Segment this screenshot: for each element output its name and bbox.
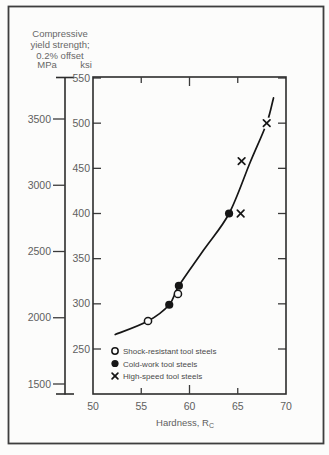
chart-svg: Compressive yield strength; 0.2% offset … [0, 0, 329, 455]
data-point-open-circle-marker [174, 290, 181, 297]
title-line-2: yield strength; [30, 39, 89, 50]
legend-item-label: Shock-resistant tool steels [123, 347, 216, 356]
data-points [144, 117, 272, 324]
legend-item-label: Cold-work tool steels [123, 360, 197, 369]
ksi-tick-label-400: 400 [72, 207, 90, 219]
ksi-axis-ticks: 550500450400350300250 [72, 72, 286, 355]
ksi-tick-label-500: 500 [72, 117, 90, 129]
mpa-tick-label-3000: 3000 [28, 179, 52, 191]
trend-curve-path [115, 98, 273, 335]
ksi-tick-label-250: 250 [72, 343, 90, 355]
data-point-filled-circle-marker [225, 209, 233, 217]
ksi-tick-label-550: 550 [72, 72, 90, 84]
mpa-tick-label-2500: 2500 [28, 245, 52, 257]
legend-item-open-circle: Shock-resistant tool steels [112, 347, 217, 356]
ksi-unit-label: ksi [80, 59, 92, 70]
legend: Shock-resistant tool steelsCold-work too… [111, 347, 216, 381]
mpa-unit-label: MPa [37, 59, 57, 70]
data-point-filled-circle-marker [165, 301, 173, 309]
chart-title: Compressive yield strength; 0.2% offset [30, 28, 89, 61]
data-point-filled-circle-marker [175, 282, 183, 290]
x-tick-label-60: 60 [184, 400, 196, 412]
data-point-open-circle-marker [144, 317, 151, 324]
trend-curve [115, 98, 273, 335]
x-tick-label-70: 70 [280, 400, 292, 412]
legend-item-x: High-speed tool steels [112, 372, 202, 381]
x-tick-label-50: 50 [87, 400, 99, 412]
legend-filled-circle-marker [111, 360, 118, 367]
x-tick-label-55: 55 [135, 400, 147, 412]
legend-item-filled-circle: Cold-work tool steels [111, 360, 197, 369]
legend-open-circle-marker [112, 348, 118, 354]
title-line-1: Compressive [32, 28, 87, 39]
legend-item-label: High-speed tool steels [123, 372, 202, 381]
tool-steel-strength-figure: Compressive yield strength; 0.2% offset … [0, 0, 329, 455]
ksi-tick-label-450: 450 [72, 162, 90, 174]
mpa-tick-label-1500: 1500 [28, 378, 52, 390]
ksi-tick-label-300: 300 [72, 297, 90, 309]
x-axis-label: Hardness, RC [156, 417, 214, 429]
mpa-tick-label-3500: 3500 [28, 113, 52, 125]
x-tick-label-65: 65 [232, 400, 244, 412]
ksi-tick-label-350: 350 [72, 252, 90, 264]
mpa-tick-label-2000: 2000 [28, 311, 52, 323]
mpa-axis: 35003000250020001500 [28, 77, 74, 395]
